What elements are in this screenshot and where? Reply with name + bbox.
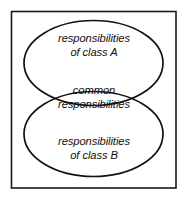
label-class-b-line-2: of class B [0,149,188,163]
label-class-a: responsibilities of class A [0,32,188,59]
label-class-b: responsibilities of class B [0,135,188,162]
label-class-a-line-2: of class A [0,46,188,60]
venn-diagram: responsibilities of class A common respo… [0,0,188,201]
label-common-line-1: common [0,84,188,98]
label-class-b-line-1: responsibilities [0,135,188,149]
label-class-a-line-1: responsibilities [0,32,188,46]
label-common-line-2: responsibilities [0,98,188,112]
label-common-responsibilities: common responsibilities [0,84,188,111]
